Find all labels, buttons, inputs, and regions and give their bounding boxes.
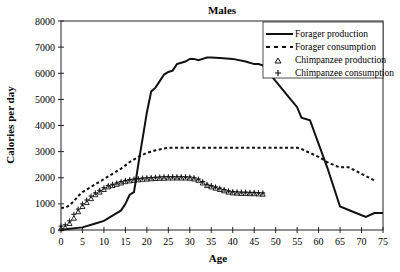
series-line-1 <box>61 148 374 208</box>
plus-marker-icon <box>67 218 72 223</box>
y-tick-label: 2000 <box>35 172 55 183</box>
plus-marker-icon <box>71 212 76 217</box>
series-group <box>59 58 384 231</box>
y-tick-label: 6000 <box>35 68 55 79</box>
y-tick-label: 3000 <box>35 146 55 157</box>
x-tick-label: 30 <box>185 236 195 247</box>
y-axis: 010002000300040005000600070008000 <box>35 16 64 236</box>
x-tick-label: 20 <box>142 236 152 247</box>
y-tick-label: 4000 <box>35 120 55 131</box>
y-tick-label: 0 <box>50 225 55 236</box>
x-tick-label: 15 <box>120 236 130 247</box>
plus-marker-icon <box>63 222 68 227</box>
x-tick-label: 35 <box>206 236 216 247</box>
legend-forager-production: Forager production <box>295 29 368 39</box>
x-tick-label: 25 <box>163 236 173 247</box>
chart-title: Males <box>208 4 237 16</box>
y-tick-label: 5000 <box>35 94 55 105</box>
x-axis-label: Age <box>209 252 227 264</box>
x-tick-label: 50 <box>271 236 281 247</box>
plus-marker-icon <box>89 194 94 199</box>
x-tick-label: 60 <box>314 236 324 247</box>
x-tick-label: 0 <box>59 236 64 247</box>
x-tick-label: 10 <box>99 236 109 247</box>
legend-chimp-consumption: Chimpanzee consumption <box>295 68 394 78</box>
x-tick-label: 65 <box>335 236 345 247</box>
plus-marker-icon <box>76 207 81 212</box>
plus-marker-icon <box>59 224 64 229</box>
legend-forager-consumption: Forager consumption <box>295 42 376 52</box>
legend: Forager production Forager consumption C… <box>263 22 394 78</box>
x-tick-label: 40 <box>228 236 238 247</box>
legend-chimp-production: Chimpanzee production <box>295 55 386 65</box>
y-tick-label: 1000 <box>35 198 55 209</box>
x-tick-label: 70 <box>357 236 367 247</box>
plus-marker-icon <box>84 197 89 202</box>
y-tick-label: 8000 <box>35 16 55 27</box>
y-tick-label: 7000 <box>35 42 55 53</box>
y-axis-label: Calories per day <box>4 86 16 164</box>
x-tick-label: 55 <box>292 236 302 247</box>
chart: Males 010002000300040005000600070008000 … <box>0 0 400 272</box>
plus-marker-icon <box>80 201 85 206</box>
x-tick-label: 5 <box>80 236 85 247</box>
series-line-0 <box>61 58 383 230</box>
x-tick-label: 75 <box>378 236 388 247</box>
x-tick-label: 45 <box>249 236 259 247</box>
